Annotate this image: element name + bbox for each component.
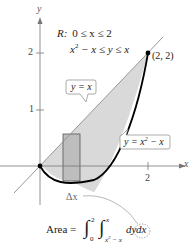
shaded-region xyxy=(40,53,148,192)
formula-dx: dx xyxy=(136,223,146,235)
formula-dy: dy xyxy=(126,223,136,235)
x-tick-label-2: 2 xyxy=(145,172,150,183)
delta-x-label: Δx xyxy=(66,191,77,202)
region-line-1: R: 0 ≤ x ≤ 2 xyxy=(57,27,129,40)
representative-rectangle xyxy=(63,134,80,181)
y-tick-label-2: 2 xyxy=(28,46,33,57)
outer-upper-limit: 2 xyxy=(91,216,95,224)
region-y-range: − x ≤ y ≤ x xyxy=(78,43,129,55)
formula-lhs: Area = xyxy=(46,223,76,235)
point-2-2 xyxy=(146,51,151,56)
region-line-2: x2 − x ≤ y ≤ x xyxy=(70,40,129,56)
y-axis-arrow-icon xyxy=(38,17,43,24)
inner-lower-limit: x2 − x xyxy=(105,235,122,244)
region-x-range: 0 ≤ x ≤ 2 xyxy=(72,27,112,39)
callout-lower-text: y = x2 − x xyxy=(124,136,164,147)
inner-integral-sign: ∫ xyxy=(99,216,104,239)
origin-point xyxy=(38,164,43,169)
region-label: R: xyxy=(57,27,67,39)
y-tick-label-1: 1 xyxy=(29,103,34,114)
callout-upper-text: y = x xyxy=(71,81,92,92)
point-label: (2, 2) xyxy=(152,50,174,61)
x-axis-label: x xyxy=(184,158,188,169)
outer-lower-limit: 0 xyxy=(90,235,94,243)
region-definition: R: 0 ≤ x ≤ 2 x2 − x ≤ y ≤ x xyxy=(57,27,129,56)
inner-upper-limit: x xyxy=(106,216,109,224)
y-axis-label: y xyxy=(37,3,41,14)
outer-integral-sign: ∫ xyxy=(84,216,89,239)
